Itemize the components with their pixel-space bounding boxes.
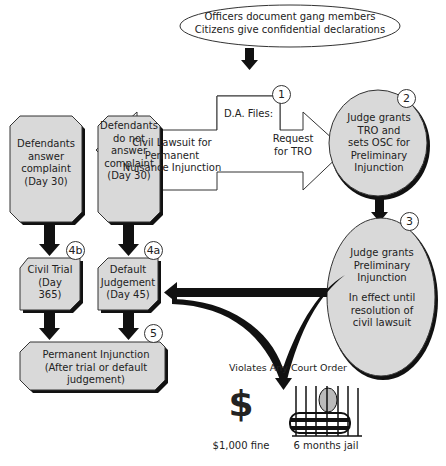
step2-number: 2	[397, 89, 416, 108]
step2-text: Judge grants TRO and sets OSC for Prelim…	[346, 112, 412, 175]
step5-number: 5	[144, 324, 163, 343]
step3-text-2: In effect until resolution of civil laws…	[346, 292, 418, 330]
jail-illustration	[290, 386, 362, 436]
flow-diagram	[0, 0, 446, 466]
permanent-injunction-text: Permanent Injunction (After trial or def…	[40, 349, 152, 387]
step3-number: 3	[400, 212, 419, 231]
step4a-number: 4a	[144, 241, 163, 260]
civil-trial-text: Civil Trial (Day 365)	[26, 264, 74, 302]
jail-label: 6 months jail	[286, 440, 366, 453]
step4b-number: 4b	[66, 241, 85, 260]
default-judgement-text: Default Judgement (Day 45)	[100, 264, 156, 302]
arrow-left-3	[164, 282, 327, 303]
fine-label: $1,000 fine	[206, 440, 276, 453]
violation-title: Violates Any Court Order	[228, 362, 348, 375]
da-files-title: D.A. Files:	[217, 108, 280, 121]
request-tro-label: Request for TRO	[272, 133, 314, 158]
no-answer-text: Defendants do not answer complaint (Day …	[100, 120, 158, 183]
arrows-to-step5	[39, 313, 139, 340]
source-line-1: Officers document gang members	[190, 11, 390, 24]
source-line-2: Citizens give confidential declarations	[190, 24, 390, 37]
source-text: Officers document gang members Citizens …	[190, 11, 390, 36]
step3-text: Judge grants Preliminary Injunction	[346, 247, 418, 285]
answer-text: Defendants answer complaint (Day 30)	[12, 138, 80, 188]
arrows-to-step4	[39, 225, 139, 256]
arrow-down-1	[241, 48, 258, 70]
step1-number: 1	[272, 85, 291, 104]
dollar-icon: $	[226, 384, 256, 424]
